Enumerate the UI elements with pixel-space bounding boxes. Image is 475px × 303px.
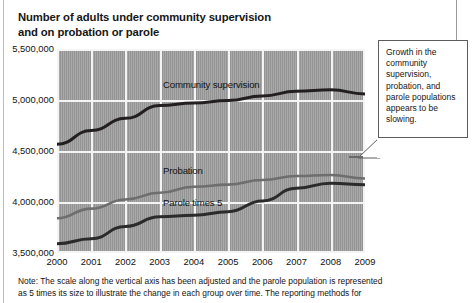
x-axis-tick-label: 2000 <box>47 256 68 267</box>
page-right-rule <box>456 0 457 44</box>
x-axis-tick-label: 2003 <box>149 256 170 267</box>
page-title-line-2: and on probation or parole <box>18 25 318 40</box>
callout-box: Growth in the community supervision, pro… <box>378 40 468 138</box>
series-line-parole-times-5 <box>57 183 365 244</box>
x-axis-tick-label: 2006 <box>252 256 273 267</box>
chart-plot: Community supervision Probation Parole t… <box>57 49 365 253</box>
series-label-probation: Probation <box>163 165 203 176</box>
chart-note-line-2: as 5 times its size to illustrate the ch… <box>18 287 460 299</box>
chart-note-line-1: Note: The scale along the vertical axis … <box>18 275 460 287</box>
callout-leader-line <box>349 156 363 158</box>
x-axis-tick-label: 2002 <box>115 256 136 267</box>
series-label-community-supervision: Community supervision <box>163 79 260 90</box>
series-line-community-supervision <box>57 90 365 145</box>
y-axis: 3,500,0004,000,0004,500,0005,000,0005,50… <box>0 49 54 253</box>
x-axis-tick-label: 2008 <box>320 256 341 267</box>
x-axis-tick-label: 2005 <box>218 256 239 267</box>
y-axis-tick-label: 5,500,000 <box>2 43 54 54</box>
page-title-line-1: Number of adults under community supervi… <box>18 10 318 25</box>
y-axis-tick-label: 5,000,000 <box>2 94 54 105</box>
y-axis-tick-label: 4,000,000 <box>2 196 54 207</box>
chart-note: Note: The scale along the vertical axis … <box>18 275 460 299</box>
series-label-parole-times-5: Parole times 5 <box>163 197 222 208</box>
x-axis-tick-label: 2007 <box>286 256 307 267</box>
x-axis-tick-label: 2009 <box>355 256 376 267</box>
page-title: Number of adults under community supervi… <box>18 10 318 39</box>
y-axis-tick-label: 4,500,000 <box>2 145 54 156</box>
x-axis-tick-label: 2004 <box>183 256 204 267</box>
x-axis-tick-label: 2001 <box>81 256 102 267</box>
callout-text: Growth in the community supervision, pro… <box>386 47 464 125</box>
x-axis: 2000200120022003200420052006200720082009 <box>57 256 365 272</box>
